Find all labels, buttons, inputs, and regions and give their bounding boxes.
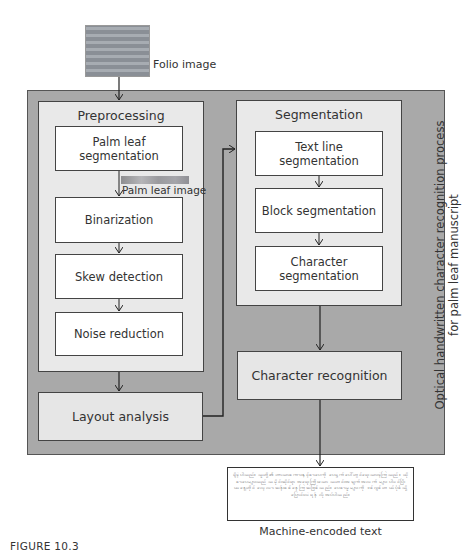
arrow-layout-to-segmentation [203, 149, 235, 416]
connector-arrows [0, 0, 468, 558]
